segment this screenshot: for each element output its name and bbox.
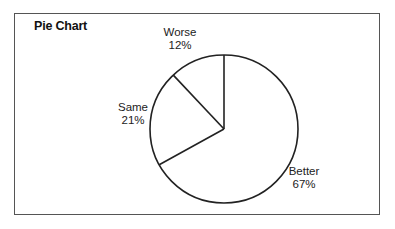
slice-name-better: Better <box>274 165 334 178</box>
slice-pct-worse: 12% <box>150 39 210 52</box>
slice-name-worse: Worse <box>150 26 210 39</box>
slice-name-same: Same <box>103 101 163 114</box>
slice-pct-same: 21% <box>103 114 163 127</box>
slice-label-worse: Worse 12% <box>150 26 210 52</box>
slice-pct-better: 67% <box>274 178 334 191</box>
slice-label-better: Better 67% <box>274 165 334 191</box>
slice-label-same: Same 21% <box>103 101 163 127</box>
